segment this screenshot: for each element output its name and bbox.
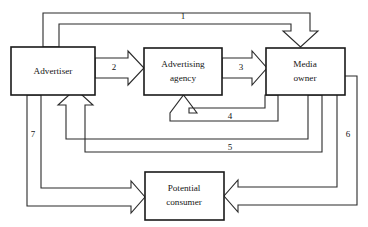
node-advertiser-label: Advertiser	[34, 66, 73, 76]
diagram-canvas: 1 2 3 4 5 6 7 Advertiser Advertising age…	[0, 0, 368, 227]
node-advertising-agency-label-line1: Advertising	[161, 59, 205, 69]
node-potential-consumer-label-line1: Potential	[168, 183, 201, 193]
edge-5-label: 5	[228, 142, 233, 152]
node-media-owner-label-line2: owner	[294, 73, 317, 83]
edge-1-label: 1	[181, 11, 186, 21]
edge-4-connector	[170, 95, 278, 121]
edge-7-connector	[27, 95, 145, 213]
node-potential-consumer-label-line2: consumer	[166, 197, 202, 207]
edge-2-label: 2	[112, 62, 117, 72]
edge-6-label: 6	[346, 129, 351, 139]
edge-3-connector	[222, 51, 267, 85]
node-media-owner-label-line1: Media	[293, 59, 316, 69]
node-advertising-agency[interactable]: Advertising agency	[144, 48, 222, 95]
node-potential-consumer[interactable]: Potential consumer	[145, 172, 224, 220]
node-advertiser[interactable]: Advertiser	[11, 47, 95, 95]
edge-2-connector	[95, 51, 144, 85]
edge-7-label: 7	[31, 129, 36, 139]
edge-4-label: 4	[228, 111, 233, 121]
flow-diagram: 1 2 3 4 5 6 7 Advertiser Advertising age…	[0, 0, 368, 227]
node-media-owner[interactable]: Media owner	[266, 48, 345, 95]
node-advertising-agency-label-line2: agency	[170, 73, 196, 83]
edge-3-label: 3	[239, 62, 244, 72]
